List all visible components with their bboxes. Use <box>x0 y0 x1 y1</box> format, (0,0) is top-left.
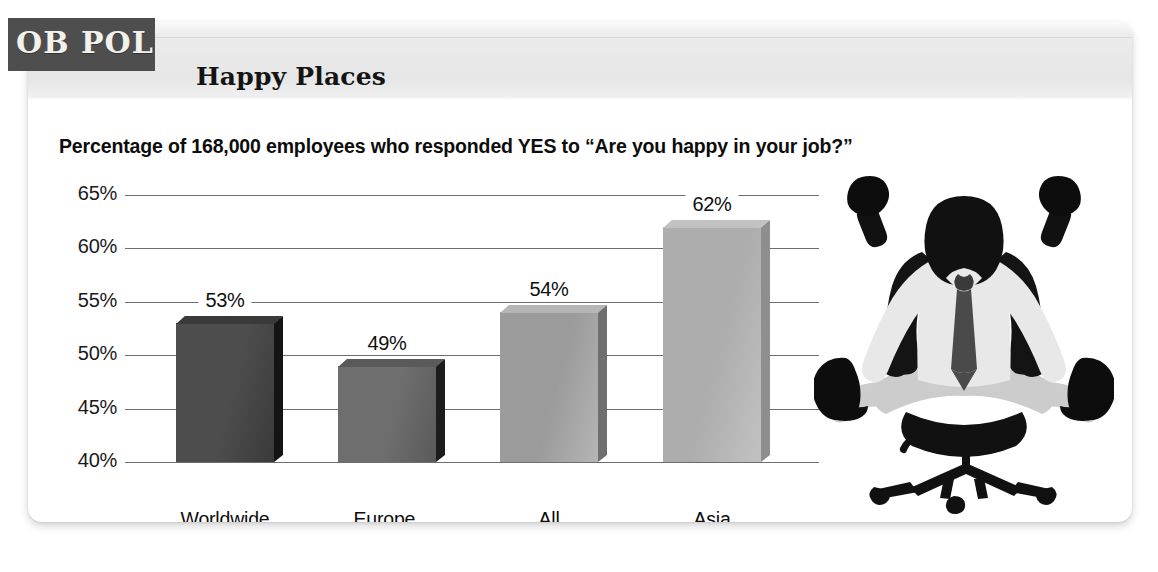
page-title: Happy Places <box>196 62 386 91</box>
bar-value-label: 62% <box>685 193 738 216</box>
chart-subtitle: Percentage of 168,000 employees who resp… <box>59 135 853 158</box>
bar-top-face <box>176 316 283 324</box>
chart-bar <box>500 312 598 462</box>
bar-front-face <box>500 312 598 462</box>
bar-front-face <box>338 366 436 462</box>
chart-bar <box>338 366 436 462</box>
fist-left <box>847 176 889 216</box>
x-axis-category-label: AllAmericas <box>459 508 639 522</box>
poll-card: Happy Places Percentage of 168,000 emplo… <box>28 22 1132 522</box>
card-header <box>28 22 1132 100</box>
bar-top-face <box>500 305 607 313</box>
chair-seat <box>901 412 1027 457</box>
x-axis-category-label: Europe,Middle East,and Africa <box>297 508 477 522</box>
header-hairline <box>28 37 1132 38</box>
x-axis-category-label: AsiaPacific <box>622 508 802 522</box>
bar-side-face <box>761 220 770 462</box>
bar-front-face <box>176 323 274 462</box>
x-axis-category-label: Worldwideaverage <box>135 508 315 522</box>
bar-side-face <box>436 359 445 462</box>
bar-value-label: 49% <box>360 332 413 355</box>
bar-side-face <box>598 305 607 462</box>
bar-value-label: 54% <box>522 278 575 301</box>
chart-bar <box>176 323 274 462</box>
page-root: Happy Places Percentage of 168,000 emplo… <box>0 0 1158 572</box>
fist-right <box>1039 176 1081 216</box>
chart-bar <box>663 227 761 462</box>
bar-value-label: 53% <box>198 289 251 312</box>
poll-badge-label: OB POLL <box>16 25 155 60</box>
bar-top-face <box>663 220 770 228</box>
bar-top-face <box>338 359 445 367</box>
bar-side-face <box>274 316 283 462</box>
celebrating-office-worker-illustration <box>814 172 1114 517</box>
poll-badge: OB POLL <box>8 18 155 71</box>
bar-front-face <box>663 227 761 462</box>
